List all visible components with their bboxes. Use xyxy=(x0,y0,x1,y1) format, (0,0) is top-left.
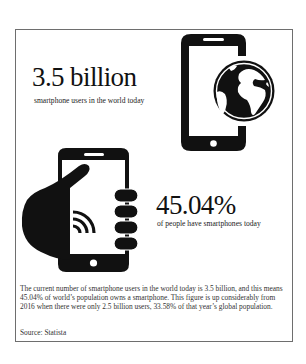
description-line: 2016 when there were only 2.5 billion us… xyxy=(20,302,290,311)
smartphone-globe-icon xyxy=(181,34,291,152)
stat-users-value: 3.5 billion xyxy=(32,64,136,91)
description-line: 45.04% of world’s population owns a smar… xyxy=(20,293,290,302)
description-paragraph: The current number of smartphone users i… xyxy=(20,284,290,311)
stat-percent-caption: of people have smartphones today xyxy=(157,219,261,228)
source-credit: Source: Statista xyxy=(20,328,66,337)
infographic-card: 3.5 billion smartphone users in the worl… xyxy=(15,29,293,342)
stat-percent-value: 45.04% xyxy=(156,192,236,219)
stat-users-caption: smartphone users in the world today xyxy=(34,96,144,105)
hand-holding-smartphone-icon xyxy=(21,148,139,272)
description-line: The current number of smartphone users i… xyxy=(20,284,290,293)
